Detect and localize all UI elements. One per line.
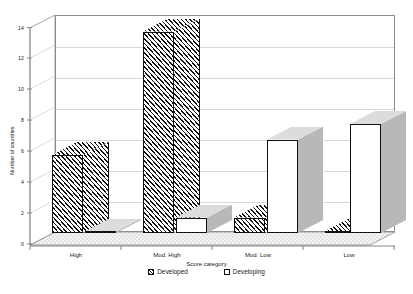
y-tick-0: 0 (8, 241, 24, 247)
legend-item-developed: Developed (148, 268, 188, 275)
x-tick-mod-low: Mod. Low (227, 252, 289, 258)
y-tick-2: 2 (8, 210, 24, 216)
legend-swatch-developed-icon (148, 269, 154, 275)
y-tick-4: 4 (8, 179, 24, 185)
bar-developing-low (350, 124, 381, 233)
x-tick-low: Low (318, 252, 380, 258)
gridline-6 (56, 140, 394, 141)
y-tick-8: 8 (8, 117, 24, 123)
bar-developing-mod-low (267, 140, 298, 234)
chart-legend: Developed Developing (0, 268, 413, 275)
y-tick-14: 14 (8, 25, 24, 31)
legend-swatch-developing-icon (224, 269, 230, 275)
gridline-10 (56, 78, 394, 79)
bar-chart: 0 2 4 6 8 10 12 14 Number of countries (0, 0, 413, 294)
x-tick-high: High (45, 252, 107, 258)
x-tick-mod-high: Mod. High (136, 252, 198, 258)
gridline-12 (56, 47, 394, 48)
bar-developed-mod-low (234, 218, 265, 234)
legend-label-developing: Developing (233, 268, 265, 275)
bar-developing-mod-high (176, 218, 207, 234)
legend-item-developing: Developing (224, 268, 265, 275)
legend-label-developed: Developed (157, 268, 188, 275)
bar-developed-mod-high (143, 32, 174, 233)
bar-developed-high (52, 155, 83, 233)
y-tick-12: 12 (8, 55, 24, 61)
y-axis-title: Number of countries (9, 126, 15, 175)
x-axis-title: Score category (0, 261, 413, 267)
bar-developing-high (85, 232, 116, 234)
y-tick-10: 10 (8, 86, 24, 92)
gridline-8 (56, 109, 394, 110)
